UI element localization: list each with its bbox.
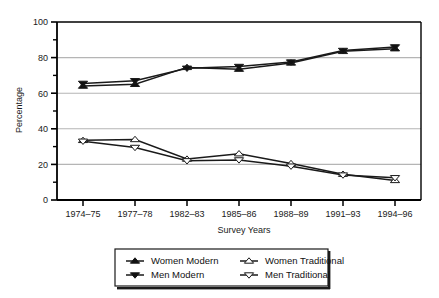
y-tick-label: 100 (33, 17, 48, 27)
y-tick-label: 0 (43, 195, 48, 205)
x-axis-tick-labels: 1974–751977–781982–831985–861988–891991–… (65, 209, 412, 219)
y-axis-title: Percentage (14, 87, 24, 133)
y-tick-label: 60 (38, 89, 48, 99)
x-axis-title: Survey Years (217, 225, 271, 235)
legend-shadow-bottom (117, 287, 330, 289)
x-tick-label: 1994–96 (377, 209, 412, 219)
legend-label: Men Traditional (265, 269, 330, 280)
x-tick-label: 1977–78 (117, 209, 152, 219)
x-tick-label: 1982–83 (169, 209, 204, 219)
y-tick-label: 40 (38, 124, 48, 134)
chart-figure: 020406080100 1974–751977–781982–831985–8… (0, 0, 439, 298)
x-tick-label: 1985–86 (221, 209, 256, 219)
x-tick-label: 1974–75 (65, 209, 100, 219)
legend: Women ModernMen ModernWomen TraditionalM… (115, 249, 344, 289)
y-tick-label: 20 (38, 160, 48, 170)
legend-label: Women Traditional (265, 255, 344, 266)
y-tick-label: 80 (38, 53, 48, 63)
legend-label: Men Modern (151, 269, 204, 280)
legend-label: Women Modern (151, 255, 218, 266)
line-chart-canvas: 020406080100 1974–751977–781982–831985–8… (0, 0, 439, 298)
x-tick-label: 1988–89 (273, 209, 308, 219)
x-tick-label: 1991–93 (325, 209, 360, 219)
